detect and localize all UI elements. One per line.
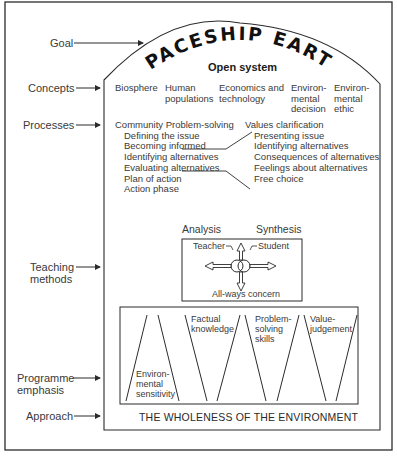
- label-goal: Goal: [50, 37, 73, 49]
- label-approach: Approach: [26, 410, 73, 422]
- concept-biosphere: Biosphere: [115, 83, 158, 94]
- analysis-label: Analysis: [182, 223, 221, 235]
- label-methods: methods: [30, 273, 72, 285]
- label-emphasis: emphasis: [17, 384, 64, 396]
- label-programme: Programme: [17, 372, 74, 384]
- label-processes: Processes: [23, 119, 74, 131]
- community-problem-solving: Community Problem-solving Defining the i…: [115, 120, 234, 195]
- synthesis-label: Synthesis: [256, 223, 302, 235]
- emphasis-value-judgement: Value-judgement: [310, 314, 352, 334]
- label-teaching: Teaching: [30, 261, 74, 273]
- values-clarification: Values clarification Presenting issue Id…: [245, 120, 379, 184]
- all-ways-concern: All-ways concern: [212, 289, 280, 299]
- concept-economics: Economics andtechnology: [219, 83, 284, 104]
- subtitle: Open system: [208, 61, 277, 73]
- emphasis-factual: Factualknowledge: [191, 314, 234, 334]
- values-step: Feelings about alternatives: [254, 163, 379, 174]
- emphasis-sensitivity: Environ-mentalsensitivity: [136, 369, 175, 399]
- concept-environmental-ethic: Environ-mentalethic: [334, 83, 369, 115]
- teacher-label: Teacher: [193, 241, 225, 251]
- approach-text: THE WHOLENESS OF THE ENVIRONMENT: [139, 411, 358, 423]
- values-step: Free choice: [254, 174, 379, 185]
- community-step: Action phase: [124, 184, 234, 195]
- student-label: Student: [258, 241, 289, 251]
- community-step: Evaluating alternatives: [124, 163, 234, 174]
- label-concepts: Concepts: [28, 82, 74, 94]
- concept-environmental-decision: Environ-mentaldecision: [291, 83, 326, 115]
- emphasis-problem-solving: Problem-solvingskills: [255, 314, 292, 344]
- concept-human-populations: Humanpopulations: [165, 83, 214, 104]
